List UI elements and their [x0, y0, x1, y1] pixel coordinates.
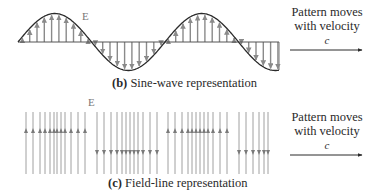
- arrow-up-icon: [76, 128, 80, 133]
- note-b-line1: Pattern moves: [282, 5, 372, 19]
- arrow-up-icon: [206, 128, 210, 133]
- field-lines: [24, 112, 270, 174]
- arrow-down-icon: [148, 150, 152, 155]
- arrow-down-icon: [262, 150, 266, 155]
- note-b-symbol: c: [282, 33, 372, 47]
- velocity-note-c: Pattern moves with velocity c: [282, 110, 372, 152]
- arrow-up-icon: [63, 128, 67, 133]
- arrow-up-icon: [31, 128, 35, 133]
- arrow-up-icon: [225, 128, 229, 133]
- arrow-up-icon: [24, 128, 28, 133]
- arrow-up-icon: [218, 128, 222, 133]
- arrow-up-icon: [83, 128, 87, 133]
- caption-b-text: Sine-wave representation: [127, 76, 257, 90]
- arrow-up-icon: [166, 128, 170, 133]
- arrow-down-icon: [115, 150, 119, 155]
- caption-c-text: Field-line representation: [122, 176, 248, 190]
- caption-b-letter: (b): [112, 76, 127, 90]
- arrow-up-icon: [38, 128, 42, 133]
- arrow-down-icon: [136, 150, 140, 155]
- arrow-up-icon: [190, 128, 194, 133]
- arrow-down-icon: [244, 150, 248, 155]
- arrow-down-icon: [132, 150, 136, 155]
- field-label-e-c: E: [88, 96, 95, 108]
- arrow-up-icon: [211, 128, 215, 133]
- arrow-down-icon: [141, 150, 145, 155]
- note-c-line2: with velocity: [282, 124, 372, 138]
- arrow-down-icon: [124, 150, 128, 155]
- velocity-note-b: Pattern moves with velocity c: [282, 5, 372, 47]
- arrow-up-icon: [198, 128, 202, 133]
- field-label-e-b: E: [82, 10, 89, 22]
- arrow-down-icon: [266, 150, 270, 155]
- arrow-down-icon: [257, 150, 261, 155]
- arrow-down-icon: [102, 150, 106, 155]
- arrow-up-icon: [194, 128, 198, 133]
- caption-c-letter: (c): [108, 176, 122, 190]
- sine-field-arrows: [22, 15, 279, 70]
- arrow-up-icon: [186, 128, 190, 133]
- arrow-up-icon: [43, 128, 47, 133]
- caption-b: (b) Sine-wave representation: [112, 76, 257, 91]
- note-b-line2: with velocity: [282, 19, 372, 33]
- arrow-down-icon: [95, 150, 99, 155]
- arrow-up-icon: [59, 128, 63, 133]
- arrow-down-icon: [251, 150, 255, 155]
- arrow-down-icon: [120, 150, 124, 155]
- arrow-up-icon: [173, 128, 177, 133]
- caption-c: (c) Field-line representation: [108, 176, 248, 191]
- note-c-line1: Pattern moves: [282, 110, 372, 124]
- arrow-up-icon: [55, 128, 59, 133]
- arrow-down-icon: [237, 150, 241, 155]
- arrow-down-icon: [109, 150, 113, 155]
- arrow-up-icon: [69, 128, 73, 133]
- arrow-down-icon: [155, 150, 159, 155]
- arrow-up-icon: [202, 128, 206, 133]
- arrow-up-icon: [48, 128, 52, 133]
- note-c-symbol: c: [282, 138, 372, 152]
- arrow-down-icon: [128, 150, 132, 155]
- arrow-up-icon: [180, 128, 184, 133]
